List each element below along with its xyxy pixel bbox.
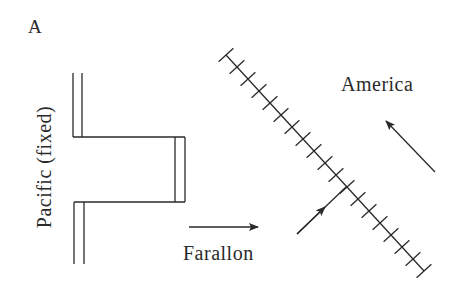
spreading-ridge xyxy=(73,73,185,264)
farallon-arrow-northeast xyxy=(297,207,325,234)
america-plate-label: America xyxy=(341,74,413,94)
america-arrow-northwest xyxy=(386,121,435,172)
pacific-plate-label: Pacific (fixed) xyxy=(34,106,54,228)
plate-tectonics-diagram: A America Farallon Pacific (fixed) xyxy=(0,0,465,300)
farallon-plate-label: Farallon xyxy=(183,243,254,263)
panel-label: A xyxy=(28,17,42,36)
